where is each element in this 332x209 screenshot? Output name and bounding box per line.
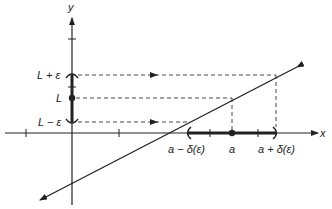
label-L-plus-epsilon: L + ε xyxy=(37,69,60,81)
label-a-minus-delta: a − δ(ε) xyxy=(168,143,205,155)
diagram-canvas: y x L + ε L L − ε a − δ(ε) a a + δ(ε) xyxy=(0,0,332,209)
point-L xyxy=(69,95,75,101)
point-a xyxy=(229,130,235,136)
epsilon-delta-diagram: y x L + ε L L − ε a − δ(ε) a a + δ(ε) xyxy=(0,0,332,209)
dashed-guides xyxy=(76,75,276,130)
label-L-minus-epsilon: L − ε xyxy=(38,116,61,128)
arrowhead-upper xyxy=(150,72,158,78)
label-L: L xyxy=(56,92,62,104)
y-axis-label: y xyxy=(67,1,75,13)
arrowhead-lower xyxy=(150,119,158,125)
label-a-plus-delta: a + δ(ε) xyxy=(258,143,295,155)
x-axis-label: x xyxy=(319,127,326,139)
label-a: a xyxy=(229,143,235,155)
